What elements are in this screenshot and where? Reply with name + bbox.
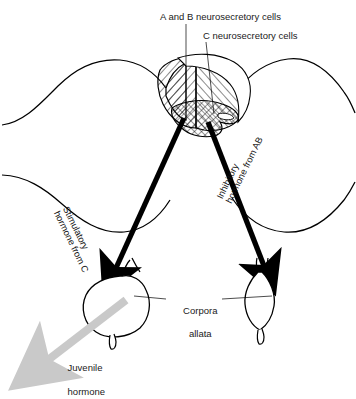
label-ab-neurosecretory-cells: A and B neurosecretory cells (160, 11, 281, 22)
body-outline-lower (2, 175, 355, 232)
label-juvenile-hormone: Juvenile hormone (57, 350, 105, 399)
corpus-allatum-right (245, 258, 274, 344)
label-corpora-allata: Corpora allata (168, 294, 222, 350)
corpora-line-2: allata (189, 328, 212, 339)
juvenile-line-1: Juvenile (68, 362, 103, 373)
label-c-neurosecretory-cells: C neurosecretory cells (203, 30, 298, 41)
corpora-line-1: Corpora (183, 305, 217, 316)
juvenile-line-2: hormone (68, 386, 106, 397)
